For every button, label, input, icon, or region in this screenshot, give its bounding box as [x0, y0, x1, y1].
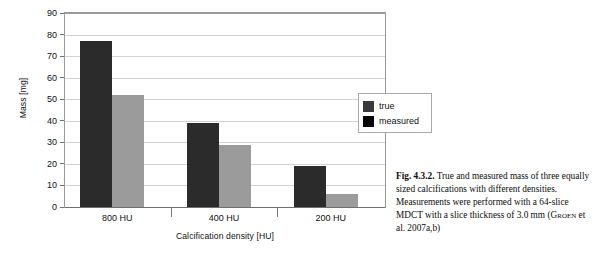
legend-swatch — [363, 116, 374, 127]
y-axis-tick: 80 — [0, 29, 64, 41]
bar-group — [294, 13, 358, 207]
y-axis-tick-label: 70 — [47, 50, 57, 62]
y-axis-tick: 70 — [0, 50, 64, 62]
bar-chart: Mass [mg] 0102030405060708090 800 HU400 … — [0, 0, 392, 263]
bar-true — [187, 123, 219, 207]
legend-entry: true — [363, 99, 431, 113]
x-axis-tick-label: 800 HU — [64, 211, 171, 225]
y-axis-tick-label: 10 — [47, 179, 57, 191]
y-axis-tick: 30 — [0, 136, 64, 148]
figure-caption-citation-name: Groen — [551, 210, 577, 220]
figure-caption-label: Fig. 4.3.2. — [396, 171, 434, 181]
x-axis-title: Calcification density [HU] — [64, 231, 386, 241]
chart-legend: truemeasured — [358, 93, 432, 133]
plot-area — [64, 12, 386, 208]
bar-true — [294, 166, 326, 207]
y-axis-tick: 20 — [0, 158, 64, 170]
legend-swatch — [363, 101, 374, 112]
bar-measured — [112, 95, 144, 207]
x-axis-tick-label: 400 HU — [171, 211, 278, 225]
x-axis-tick-labels: 800 HU400 HU200 HU — [64, 211, 386, 227]
legend-label: true — [379, 101, 395, 112]
y-axis-tick-label: 50 — [47, 93, 57, 105]
bar-group — [187, 13, 251, 207]
y-axis-tick-label: 90 — [47, 7, 57, 19]
y-axis-tick: 90 — [0, 7, 64, 19]
y-axis-tick: 0 — [0, 201, 64, 213]
y-axis-tick: 10 — [0, 179, 64, 191]
y-axis-tick: 60 — [0, 72, 64, 84]
bar-true — [80, 41, 112, 207]
x-axis-tick-label: 200 HU — [277, 211, 384, 225]
figure-root: Mass [mg] 0102030405060708090 800 HU400 … — [0, 0, 603, 263]
legend-entry: measured — [363, 114, 431, 128]
y-axis-tick-label: 20 — [47, 158, 57, 170]
bar-measured — [326, 194, 358, 207]
figure-caption: Fig. 4.3.2. True and measured mass of th… — [396, 170, 596, 235]
y-axis-tick-labels: 0102030405060708090 — [0, 12, 64, 208]
y-axis-tick-label: 40 — [47, 115, 57, 127]
y-axis-tick-label: 0 — [52, 201, 57, 213]
legend-label: measured — [379, 116, 419, 127]
y-axis-tick-label: 60 — [47, 72, 57, 84]
y-axis-tick: 40 — [0, 115, 64, 127]
bars-layer — [65, 13, 385, 207]
bar-measured — [219, 145, 251, 208]
y-axis-tick-label: 30 — [47, 136, 57, 148]
y-axis-tick: 50 — [0, 93, 64, 105]
bar-group — [80, 13, 144, 207]
y-axis-tick-label: 80 — [47, 29, 57, 41]
